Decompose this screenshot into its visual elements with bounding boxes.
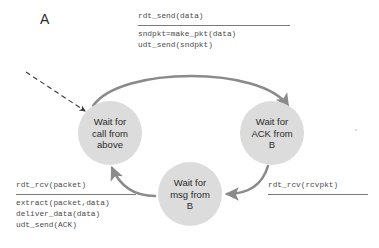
transition-action-1: sndpkt=make_pkt(data) <box>138 29 290 40</box>
transition-event: rdt_rcv(rcvpkt) <box>268 180 368 193</box>
figure-corner-label: A <box>40 11 49 27</box>
transition-arrow-rdt-send <box>93 76 288 106</box>
transition-action-2: deliver_data(data) <box>16 209 136 220</box>
transition-event: rdt_send(data) <box>138 11 290 24</box>
state-wait-for-call-from-above[interactable] <box>78 101 142 165</box>
transition-divider <box>268 194 368 195</box>
state-wait-for-ack-from-b[interactable] <box>240 101 304 165</box>
transition-label-rdt-rcv-rcvpkt: rdt_rcv(rcvpkt) <box>268 180 368 198</box>
transition-action-1: extract(packet,data) <box>16 198 136 209</box>
transition-action-2: udt_send(sndpkt) <box>138 40 290 51</box>
transition-arrow-rdt-rcv-rcvpkt <box>227 166 268 194</box>
transition-divider <box>16 194 136 195</box>
transition-label-rdt-rcv-packet: rdt_rcv(packet) extract(packet,data) del… <box>16 180 136 231</box>
transition-divider <box>138 25 290 26</box>
transition-event: rdt_rcv(packet) <box>16 180 136 193</box>
transition-action-3: udt_send(ACK) <box>16 220 136 231</box>
fsm-diagram: A Wait for call from above Wait for ACK … <box>0 0 379 248</box>
state-wait-for-msg-from-b[interactable] <box>158 162 222 226</box>
transition-label-rdt-send: rdt_send(data) sndpkt=make_pkt(data) udt… <box>138 11 290 51</box>
initial-state-arrow <box>26 72 85 111</box>
scan-artifact-speck <box>355 129 357 131</box>
